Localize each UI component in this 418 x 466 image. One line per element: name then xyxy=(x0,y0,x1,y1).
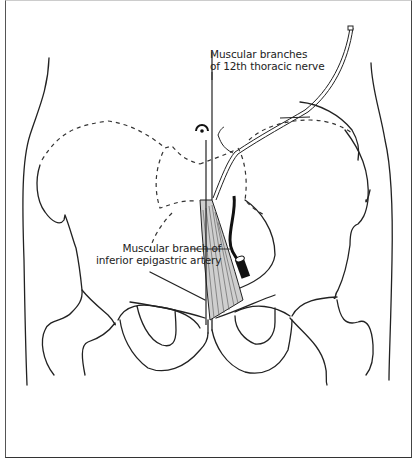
body-contour-right xyxy=(371,63,392,380)
nerve-label-line2: of 12th thoracic nerve xyxy=(210,60,325,72)
umbilicus-icon xyxy=(196,125,208,133)
left-sacral-dashed xyxy=(156,152,195,208)
right-ischium xyxy=(290,297,337,385)
right-hip-joint xyxy=(337,300,373,375)
inguinal-line xyxy=(150,272,205,300)
nerve-label-line1: Muscular branches xyxy=(210,48,325,60)
nerve-label: Muscular branches of 12th thoracic nerve xyxy=(210,48,325,72)
artery-label: Muscular branch of inferior epigastric a… xyxy=(96,242,221,266)
right-iliac-wing xyxy=(334,130,368,298)
left-hip-socket xyxy=(82,290,115,375)
artery-label-line1: Muscular branch of xyxy=(96,242,221,254)
body-contour-left xyxy=(23,58,49,385)
left-iliac-wing xyxy=(37,165,82,375)
right-obturator xyxy=(235,306,290,344)
left-obturator xyxy=(118,305,200,346)
nerve-branch-hook xyxy=(218,127,233,153)
left-superior-ramus xyxy=(130,302,205,318)
right-pubic-rami xyxy=(212,320,292,373)
artery-label-line2: inferior epigastric artery xyxy=(96,254,221,266)
left-iliac-dashed xyxy=(42,121,200,164)
pelvis-illustration xyxy=(0,0,418,466)
nerve-branch-upper xyxy=(280,117,310,118)
center-dashed xyxy=(200,150,235,164)
